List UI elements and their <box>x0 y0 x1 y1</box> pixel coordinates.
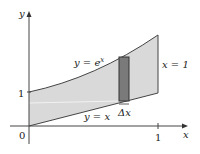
y-axis-label: y <box>18 8 25 19</box>
curve-exp-label: y = ex <box>73 56 104 68</box>
x-tick-label: 1 <box>155 132 161 143</box>
delta-x-strip <box>119 57 129 101</box>
area-between-curves-diagram: y x 0 1 1 y = ex y = x x = 1 Δx <box>0 0 200 154</box>
diagram-canvas: y x 0 1 1 y = ex y = x x = 1 Δx <box>0 0 200 154</box>
boundary-label: x = 1 <box>162 59 189 70</box>
y-axis-arrow-icon <box>27 11 32 17</box>
delta-x-label: Δx <box>117 107 131 118</box>
curve-exp-label-base: y = e <box>73 57 100 68</box>
y-tick-label: 1 <box>18 88 24 99</box>
curve-exp-label-exponent: x <box>100 56 104 64</box>
x-axis-label: x <box>183 129 189 140</box>
x-axis-arrow-icon <box>182 124 188 129</box>
origin-label: 0 <box>19 130 25 141</box>
curve-line-label: y = x <box>83 111 110 122</box>
